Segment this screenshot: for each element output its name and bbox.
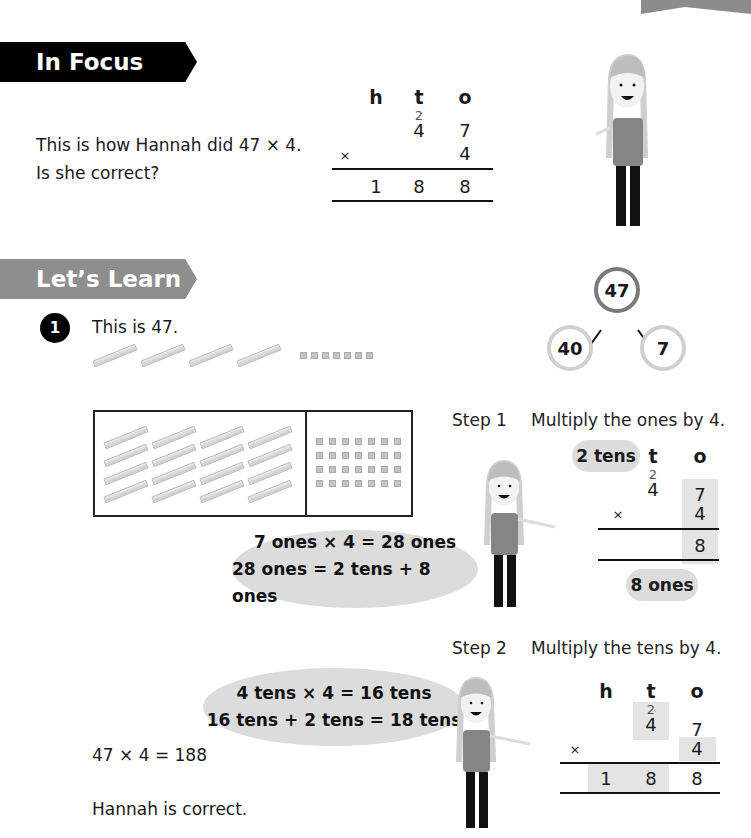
lets-learn-title: Let’s Learn	[36, 266, 181, 292]
ones-cube	[311, 352, 318, 359]
result-digit: 8	[682, 768, 712, 789]
header-t: t	[404, 86, 434, 108]
ones-cube	[300, 352, 307, 359]
tens-rod	[92, 344, 137, 368]
header-t: t	[636, 680, 666, 702]
step2-instruction: Multiply the tens by 4.	[531, 638, 721, 658]
result-digit: 8	[636, 768, 666, 789]
header-o: o	[685, 445, 715, 467]
tens-rod	[140, 344, 185, 368]
header-o: o	[682, 680, 712, 702]
digit: 7	[450, 120, 480, 141]
header-h: h	[591, 680, 621, 702]
header-h: h	[361, 86, 391, 108]
hannah-column-method: h t o 2 4 7 × 4 1 8 8	[330, 86, 495, 206]
digit: 4	[685, 503, 715, 524]
result-digit: 1	[361, 176, 391, 197]
speech-line-2: 16 tens + 2 tens = 18 tens	[207, 707, 462, 734]
multiply-sign: ×	[330, 148, 360, 163]
divider-line	[598, 528, 719, 530]
digit: 7	[685, 484, 715, 505]
result-digit: 1	[591, 768, 621, 789]
multiply-sign: ×	[603, 507, 633, 522]
number-bond-part-ones: 7	[640, 325, 686, 371]
divider-line	[598, 559, 719, 561]
tens-rod	[236, 344, 281, 368]
place-value-divider	[305, 412, 307, 515]
ones-cube	[344, 352, 351, 359]
lets-learn-banner: Let’s Learn	[0, 259, 197, 299]
intro-text: This is 47.	[92, 313, 178, 341]
step2-speech-bubble: 4 tens × 4 = 16 tens 16 tens + 2 tens = …	[203, 668, 465, 746]
ones-cube	[366, 352, 373, 359]
question-text: This is how Hannah did 47 × 4. Is she co…	[36, 131, 302, 187]
divider-line	[332, 168, 493, 170]
ones-result-bubble: 8 ones	[626, 569, 698, 601]
final-equation: 47 × 4 = 188	[92, 741, 207, 769]
digit: 4	[682, 738, 712, 759]
speech-line-2: 28 ones = 2 tens + 8 ones	[232, 556, 478, 610]
in-focus-banner: In Focus	[0, 42, 197, 82]
result-digit: 8	[404, 176, 434, 197]
digit: 4	[636, 714, 666, 735]
divider-line	[560, 792, 720, 794]
item-number-badge: 1	[40, 313, 70, 343]
step2-label: Step 2	[452, 638, 507, 658]
in-focus-title: In Focus	[36, 49, 143, 75]
conclusion-text: Hannah is correct.	[92, 795, 247, 823]
result-digit: 8	[450, 176, 480, 197]
digit: 7	[682, 719, 712, 740]
step2-column-method: h t o 2 4 7 × 4 1 8 8	[560, 680, 725, 795]
hannah-character-illustration	[590, 48, 660, 233]
place-value-box	[93, 410, 413, 517]
result-digit: 8	[685, 535, 715, 556]
page-tab-decoration	[641, 0, 751, 14]
speech-line-1: 4 tens × 4 = 16 tens	[236, 680, 431, 707]
header-o: o	[450, 86, 480, 108]
ones-cube	[333, 352, 340, 359]
divider-line	[560, 762, 720, 764]
step1-instruction: Multiply the ones by 4.	[531, 410, 725, 430]
base-ten-47	[90, 340, 380, 370]
ones-cube	[355, 352, 362, 359]
tens-rod	[188, 344, 233, 368]
multiply-sign: ×	[560, 742, 590, 757]
divider-line	[332, 200, 493, 202]
digit: 4	[638, 479, 668, 500]
number-bond-whole: 47	[594, 267, 640, 313]
number-bond-part-tens: 40	[547, 325, 593, 371]
digit: 4	[450, 143, 480, 164]
hannah-character-illustration	[480, 455, 560, 610]
ones-cube	[322, 352, 329, 359]
hannah-character-illustration	[452, 672, 537, 832]
question-line-2: Is she correct?	[36, 159, 302, 187]
step1-speech-bubble: 7 ones × 4 = 28 ones 28 ones = 2 tens + …	[232, 530, 478, 608]
header-t: t	[638, 445, 668, 467]
speech-line-1: 7 ones × 4 = 28 ones	[254, 529, 456, 556]
step1-label: Step 1	[452, 410, 507, 430]
question-line-1: This is how Hannah did 47 × 4.	[36, 131, 302, 159]
digit: 4	[404, 120, 434, 141]
